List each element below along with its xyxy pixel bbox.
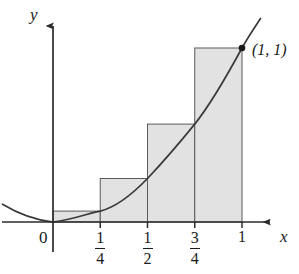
x-tick-label-one-quarter: 1 4 <box>94 230 106 268</box>
x-tick-label-one: 1 <box>238 229 246 245</box>
riemann-sum-figure: y x 0 1 4 1 2 3 4 1 (1, 1) <box>0 0 299 274</box>
x-tick-label-three-quarters: 3 4 <box>189 230 201 268</box>
riemann-rectangles <box>53 48 242 222</box>
fraction-numerator: 1 <box>94 230 106 247</box>
origin-label: 0 <box>39 229 48 246</box>
fraction-bar <box>95 248 105 249</box>
riemann-rect-4 <box>195 48 242 222</box>
point-label-1-1: (1, 1) <box>252 42 287 58</box>
fraction-numerator: 3 <box>189 230 201 247</box>
point-marker-1-1 <box>239 45 246 52</box>
y-axis-label: y <box>30 6 38 23</box>
x-axis-ticks <box>100 222 242 228</box>
fraction-denominator: 4 <box>189 250 201 267</box>
x-axis-label: x <box>280 228 288 245</box>
x-tick-label-one-half: 1 2 <box>142 230 154 268</box>
fraction-denominator: 2 <box>142 250 154 267</box>
fraction-bar <box>190 248 200 249</box>
fraction-one-quarter: 1 4 <box>94 230 106 268</box>
fraction-bar <box>143 248 153 249</box>
fraction-one-half: 1 2 <box>142 230 154 268</box>
riemann-rect-3 <box>148 124 195 222</box>
fraction-denominator: 4 <box>94 250 106 267</box>
fraction-numerator: 1 <box>142 230 154 247</box>
fraction-three-quarters: 3 4 <box>189 230 201 268</box>
